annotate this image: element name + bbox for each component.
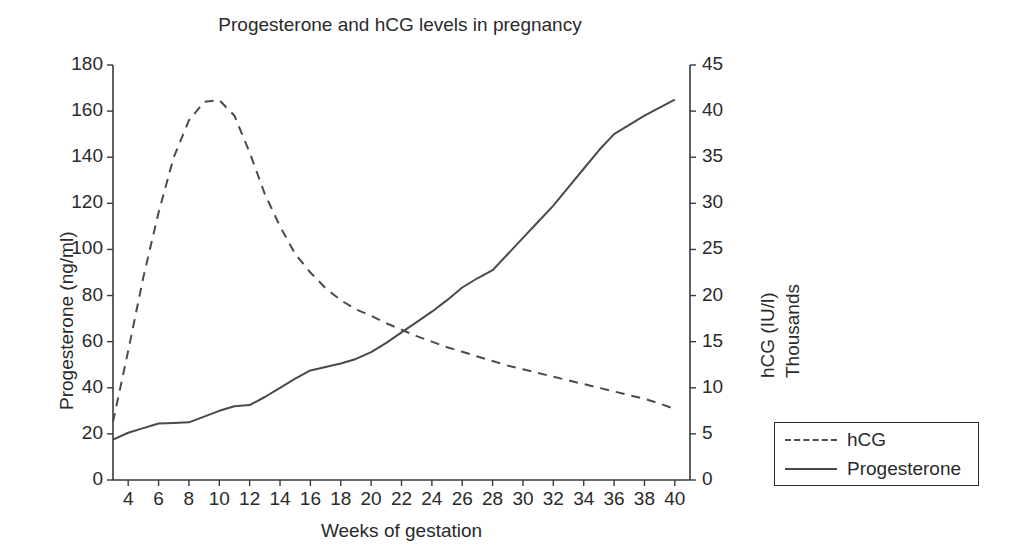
x-axis-title: Weeks of gestation	[113, 520, 690, 542]
y-tick-label-right: 40	[702, 99, 748, 121]
y-tick-label-right: 25	[702, 237, 748, 259]
y-tick-label-left: 0	[57, 468, 103, 490]
y-tick-label-right: 35	[702, 145, 748, 167]
legend-swatch-solid-icon	[785, 463, 837, 475]
data-series	[113, 100, 675, 440]
y-tick-label-right: 20	[702, 284, 748, 306]
y-tick-label-right: 30	[702, 191, 748, 213]
y-axis-right-title-line2: Thousands	[782, 284, 804, 378]
legend-label-hcg: hCG	[847, 429, 886, 451]
y-tick-label-left: 180	[57, 53, 103, 75]
y-axis-right-title-line1: hCG (IU/l)	[757, 293, 779, 379]
y-tick-label-left: 20	[57, 422, 103, 444]
series-line-hcg	[113, 100, 675, 422]
axis-ticks	[107, 65, 696, 486]
y-tick-label-left: 120	[57, 191, 103, 213]
chart-figure: Progesterone and hCG levels in pregnancy…	[0, 0, 1011, 560]
x-tick-label: 40	[655, 488, 695, 510]
chart-legend[interactable]: hCG Progesterone	[774, 422, 979, 486]
y-tick-label-right: 10	[702, 376, 748, 398]
y-tick-label-left: 160	[57, 99, 103, 121]
y-tick-label-right: 5	[702, 422, 748, 444]
series-line-progesterone	[113, 100, 675, 440]
y-tick-label-right: 45	[702, 53, 748, 75]
y-tick-label-right: 15	[702, 330, 748, 352]
legend-item-progesterone[interactable]: Progesterone	[785, 456, 961, 482]
legend-swatch-dashed-icon	[785, 434, 837, 446]
y-tick-label-right: 0	[702, 468, 748, 490]
legend-label-progesterone: Progesterone	[847, 458, 961, 480]
legend-item-hcg[interactable]: hCG	[785, 427, 886, 453]
y-axis-left-title: Progesterone (ng/ml)	[56, 232, 78, 410]
y-tick-label-left: 140	[57, 145, 103, 167]
